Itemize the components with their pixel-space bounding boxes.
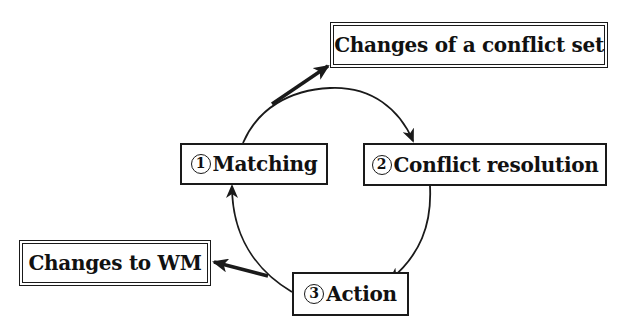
wm-changes-box: Changes to WM <box>19 240 211 286</box>
step-number-2: 2 <box>372 155 392 175</box>
wm-changes-label: Changes to WM <box>28 251 201 275</box>
conflict-resolution-label: Conflict resolution <box>394 153 599 177</box>
matching-label: Matching <box>213 152 318 176</box>
conflict-resolution-box: 2 Conflict resolution <box>363 143 607 186</box>
action-label: Action <box>326 282 397 306</box>
arc-conflict-resolution-to-action <box>390 186 430 280</box>
step-number-3: 3 <box>304 284 324 304</box>
conflict-set-changes-label: Changes of a conflict set <box>334 33 604 57</box>
conflict-set-changes-box: Changes of a conflict set <box>330 22 608 68</box>
step-number-1: 1 <box>191 154 211 174</box>
matching-box: 1 Matching <box>180 143 328 185</box>
arc-matching-to-conflict-resolution <box>243 88 413 143</box>
arrow-to-conflict-set-changes <box>272 66 328 104</box>
action-box: 3 Action <box>292 272 409 316</box>
arrow-to-wm-changes <box>214 262 268 276</box>
